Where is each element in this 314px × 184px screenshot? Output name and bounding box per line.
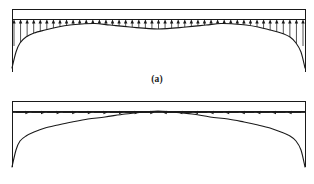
figure-canvas: (a) (b) [0, 0, 314, 184]
panel-a-caption: (a) [0, 74, 314, 84]
beam-outline-a [13, 10, 306, 20]
load-arrow-group-a [12, 19, 304, 46]
load-envelope-curve-a [12, 23, 305, 68]
figure-panel-b: (b) [0, 92, 314, 184]
panel-b-group [12, 102, 306, 168]
load-envelope-curve-b [12, 111, 305, 167]
panel-b-diagram [0, 92, 314, 184]
figure-panel-a: (a) [0, 0, 314, 92]
beam-outline-b [13, 102, 306, 112]
panel-a-group [12, 10, 306, 73]
